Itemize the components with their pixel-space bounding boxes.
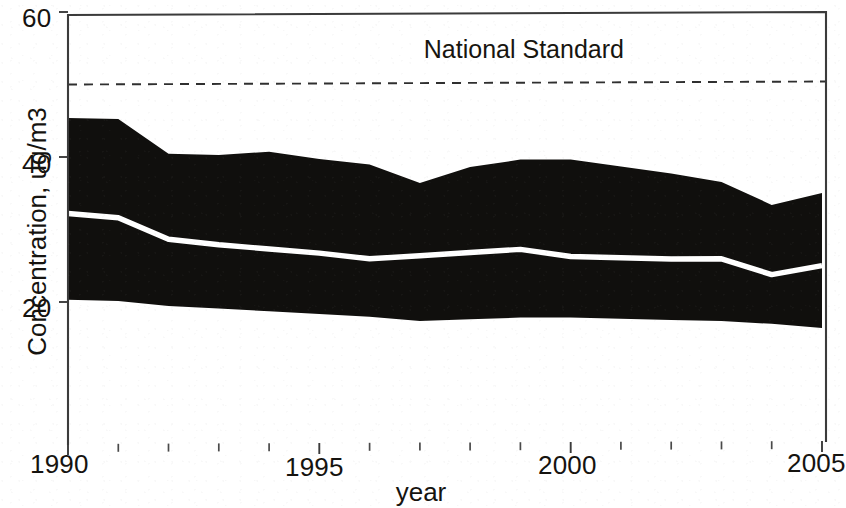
concentration-band [68,118,822,328]
y-tick-label-40: 40 [22,149,51,180]
x-tick-label-2000: 2000 [538,450,597,481]
y-tick-marks [59,12,68,302]
x-tick-label-2005: 2005 [787,448,846,479]
band-area [68,118,822,328]
x-tick-label-1995: 1995 [285,452,344,483]
y-tick-label-60: 60 [22,3,51,34]
national-standard-line-group [68,82,826,85]
x-tick-label-1990: 1990 [30,449,89,480]
x-tick-marks [68,441,822,455]
national-standard-line [68,82,826,85]
national-standard-annotation: National Standard [424,35,624,64]
y-axis-label: Concentration, ug/m3 [22,77,53,387]
x-axis-label: year [0,477,842,508]
y-tick-label-20: 20 [22,293,51,324]
